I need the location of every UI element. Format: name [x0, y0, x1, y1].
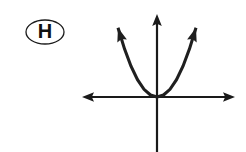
choice-label-letter: H	[38, 20, 52, 42]
graph-figure-screenshot: H	[0, 0, 246, 152]
coordinate-plane-figure: H	[0, 0, 246, 152]
